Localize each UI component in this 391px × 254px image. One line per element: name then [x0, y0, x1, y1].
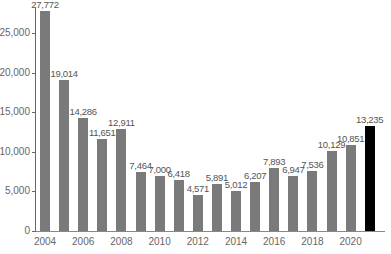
- bar-2015: [250, 182, 260, 231]
- bar-2010: [155, 176, 165, 231]
- x-tick-label: 2014: [216, 236, 256, 247]
- value-label: 19,014: [44, 68, 84, 79]
- y-tick-mark: [32, 231, 36, 232]
- bar-2016: [269, 168, 279, 231]
- x-tick-label: 2006: [63, 236, 103, 247]
- bar-2020: [346, 145, 356, 231]
- value-label: 6,418: [159, 168, 199, 179]
- bar-chart: 05,00010,00015,00020,00025,000 200420062…: [0, 0, 391, 254]
- bar-2004: [40, 11, 50, 231]
- y-tick-label: 0: [0, 225, 30, 236]
- bar-2013: [212, 184, 222, 231]
- bar-2018: [307, 171, 317, 231]
- y-tick-mark: [32, 33, 36, 34]
- y-tick-mark: [32, 152, 36, 153]
- bar-2005: [59, 80, 69, 231]
- value-label: 14,286: [63, 106, 103, 117]
- y-tick-label: 25,000: [0, 27, 30, 38]
- bar-2009: [136, 172, 146, 231]
- x-tick-label: 2020: [331, 236, 371, 247]
- value-label: 13,235: [350, 114, 390, 125]
- x-axis: [35, 231, 385, 232]
- y-tick-mark: [32, 112, 36, 113]
- bar-2019: [327, 151, 337, 231]
- x-tick-label: 2016: [254, 236, 294, 247]
- value-label: 12,911: [101, 117, 141, 128]
- value-label: 27,772: [25, 0, 65, 10]
- x-tick-label: 2018: [292, 236, 332, 247]
- bar-2021: [365, 126, 375, 231]
- y-tick-label: 10,000: [0, 146, 30, 157]
- bar-2014: [231, 191, 241, 231]
- y-tick-mark: [32, 191, 36, 192]
- x-tick-label: 2010: [140, 236, 180, 247]
- x-tick-label: 2012: [178, 236, 218, 247]
- bar-2012: [193, 195, 203, 231]
- x-tick-label: 2004: [25, 236, 65, 247]
- x-tick-label: 2008: [101, 236, 141, 247]
- bar-2008: [116, 129, 126, 231]
- y-tick-label: 20,000: [0, 67, 30, 78]
- y-tick-label: 15,000: [0, 106, 30, 117]
- y-tick-mark: [32, 73, 36, 74]
- bar-2017: [288, 176, 298, 231]
- bar-2007: [97, 139, 107, 231]
- y-tick-label: 5,000: [0, 185, 30, 196]
- y-axis: [35, 8, 36, 232]
